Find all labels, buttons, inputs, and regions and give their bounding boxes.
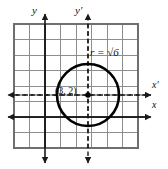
circle-center-label: (3, 2) [55,86,77,96]
circle-radius-label: r = √6 [90,47,119,58]
x-prime-axis-label: x' [152,80,159,90]
center-point-dot [85,92,91,98]
y-prime-axis-label: y' [75,5,82,16]
y-axis-label: y [32,5,37,16]
coordinate-figure: y y' x x' (3, 2) r = √6 [0,0,168,169]
figure-canvas [0,0,168,169]
x-axis-label: x [152,100,156,110]
